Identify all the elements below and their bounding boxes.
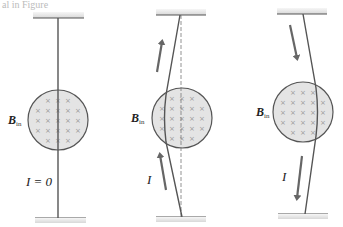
field-mark-x: × <box>310 129 316 137</box>
field-mark-x: × <box>300 89 306 97</box>
field-mark-x: × <box>189 125 195 133</box>
field-mark-x: × <box>169 135 175 143</box>
current-arrow-down <box>290 25 297 58</box>
bottom-support-bar <box>278 214 328 219</box>
field-mark-x: × <box>45 137 51 145</box>
field-mark-x: × <box>320 99 326 107</box>
field-mark-x: × <box>290 109 296 117</box>
field-mark-x: × <box>310 99 316 107</box>
field-mark-x: × <box>290 89 296 97</box>
field-mark-x: × <box>169 125 175 133</box>
panel-no-current: ××××××××××××××××××××× Bin I = 0 <box>7 12 88 223</box>
panel-current-down: ××××××××××××××××××××× Bin I <box>255 8 333 219</box>
field-mark-x: × <box>179 135 185 143</box>
top-support-bar <box>277 8 327 14</box>
field-mark-x: × <box>45 107 51 115</box>
field-mark-x: × <box>280 109 286 117</box>
field-mark-x: × <box>199 125 205 133</box>
bottom-support-bar <box>35 218 86 223</box>
field-mark-x: × <box>290 129 296 137</box>
field-mark-x: × <box>169 105 175 113</box>
field-mark-x: × <box>35 107 41 115</box>
field-mark-x: × <box>169 95 175 103</box>
field-mark-x: × <box>179 125 185 133</box>
field-mark-x: × <box>199 105 205 113</box>
field-mark-x: × <box>280 119 286 127</box>
panel-current-up: ××××××××××××××××××××× Bin I <box>130 9 212 222</box>
field-mark-x: × <box>300 99 306 107</box>
field-label: Bin <box>255 105 270 120</box>
field-mark-x: × <box>320 119 326 127</box>
field-mark-x: × <box>65 127 71 135</box>
field-mark-x: × <box>35 127 41 135</box>
field-mark-x: × <box>179 95 185 103</box>
current-arrow-down <box>297 156 302 198</box>
field-mark-x: × <box>75 107 81 115</box>
field-label: Bin <box>130 111 145 126</box>
field-mark-x: × <box>45 127 51 135</box>
field-mark-x: × <box>169 115 175 123</box>
field-mark-x: × <box>199 115 205 123</box>
field-mark-x: × <box>189 135 195 143</box>
current-label: I = 0 <box>25 174 53 189</box>
current-label: I <box>281 169 287 184</box>
field-mark-x: × <box>290 99 296 107</box>
field-mark-x: × <box>310 109 316 117</box>
field-mark-x: × <box>35 117 41 125</box>
field-mark-x: × <box>179 105 185 113</box>
header-fragment: al in Figure <box>2 0 49 10</box>
top-support-bar <box>33 12 84 18</box>
field-mark-x: × <box>75 117 81 125</box>
field-mark-x: × <box>189 115 195 123</box>
top-support-bar <box>156 9 206 15</box>
field-mark-x: × <box>45 97 51 105</box>
field-mark-x: × <box>300 129 306 137</box>
field-mark-x: × <box>310 89 316 97</box>
field-mark-x: × <box>320 109 326 117</box>
current-arrow-up <box>160 155 166 190</box>
field-mark-x: × <box>65 137 71 145</box>
magnetic-force-wire-diagram: al in Figure ××××××××××××××××××××× Bin I… <box>0 0 343 227</box>
field-mark-x: × <box>290 119 296 127</box>
field-mark-x: × <box>65 97 71 105</box>
field-mark-x: × <box>45 117 51 125</box>
field-mark-x: × <box>310 119 316 127</box>
field-mark-x: × <box>300 119 306 127</box>
field-mark-x: × <box>280 99 286 107</box>
field-mark-x: × <box>189 105 195 113</box>
field-mark-x: × <box>179 115 185 123</box>
current-label: I <box>146 172 152 187</box>
current-arrow-up <box>157 42 162 72</box>
bottom-support-bar <box>156 217 206 222</box>
field-mark-x: × <box>189 95 195 103</box>
field-mark-x: × <box>65 117 71 125</box>
field-mark-x: × <box>300 109 306 117</box>
field-mark-x: × <box>65 107 71 115</box>
field-mark-x: × <box>75 127 81 135</box>
field-label: Bin <box>7 113 22 128</box>
